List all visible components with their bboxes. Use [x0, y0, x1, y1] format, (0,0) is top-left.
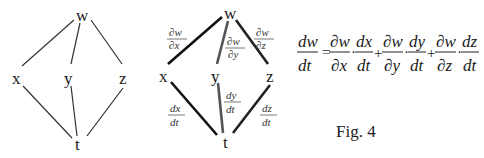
svg-text:dx: dx — [170, 102, 181, 114]
svg-text:∂w: ∂w — [330, 32, 350, 51]
node-t: t — [75, 135, 80, 154]
edge-label-z-t: dz dt — [260, 102, 277, 128]
svg-text:dt: dt — [357, 56, 372, 75]
edge-label-x-t: dx dt — [168, 102, 185, 128]
svg-text:∂w: ∂w — [436, 32, 456, 51]
edge-label-w-z: ∂w ∂z — [254, 26, 274, 51]
svg-text:dy: dy — [409, 32, 426, 51]
term-2-derivative: dy dt — [408, 32, 426, 75]
plus-sign: + — [374, 45, 382, 61]
node-y: y — [211, 67, 220, 86]
node-z: z — [119, 69, 127, 88]
svg-text:dt: dt — [226, 103, 236, 115]
svg-text:∂w: ∂w — [227, 35, 240, 47]
svg-text:∂y: ∂y — [228, 48, 238, 60]
svg-text:dt: dt — [410, 56, 425, 75]
svg-text:dz: dz — [462, 32, 478, 51]
svg-text:∂w: ∂w — [169, 26, 182, 38]
edge-label-y-t: dy dt — [224, 89, 241, 115]
edge-label-w-x: ∂w ∂x — [167, 26, 187, 51]
labeled-tree-diagram: w x y z t ∂w ∂x ∂w ∂y ∂w ∂z dx dt dy d — [159, 4, 277, 152]
term-3-partial: ∂w ∂z — [435, 32, 456, 75]
node-y: y — [64, 69, 73, 88]
node-x: x — [12, 69, 21, 88]
svg-text:dt: dt — [298, 56, 313, 75]
figure-caption: Fig. 4 — [336, 122, 376, 141]
node-w: w — [224, 4, 237, 23]
svg-text:dx: dx — [356, 32, 373, 51]
term-2-partial: ∂w ∂y — [382, 32, 403, 75]
svg-text:∂z: ∂z — [437, 56, 452, 75]
figure-canvas: w x y z t w x y z t ∂w ∂x ∂w ∂y ∂w ∂ — [0, 0, 484, 158]
svg-text:∂z: ∂z — [256, 39, 266, 51]
plus-sign: + — [427, 45, 435, 61]
svg-text:dy: dy — [226, 89, 237, 101]
svg-text:∂x: ∂x — [169, 39, 179, 51]
node-z: z — [266, 67, 274, 86]
edge-label-w-y: ∂w ∂y — [225, 35, 245, 60]
svg-text:dz: dz — [262, 102, 273, 114]
node-w: w — [76, 6, 89, 25]
term-1-derivative: dx dt — [355, 32, 373, 75]
svg-text:∂y: ∂y — [384, 56, 400, 75]
term-3-derivative: dz dt — [461, 32, 479, 75]
svg-text:∂w: ∂w — [256, 26, 269, 38]
svg-text:dw: dw — [298, 32, 319, 51]
node-x: x — [159, 67, 168, 86]
svg-text:dt: dt — [262, 116, 272, 128]
chain-rule-equation: dw dt = ∂w ∂x · dx dt + ∂w ∂y · dy dt + — [297, 32, 479, 75]
svg-text:dt: dt — [170, 116, 180, 128]
svg-text:∂x: ∂x — [331, 56, 347, 75]
node-t: t — [223, 133, 228, 152]
term-1-partial: ∂w ∂x — [329, 32, 350, 75]
svg-text:∂w: ∂w — [383, 32, 403, 51]
left-tree-diagram: w x y z t — [12, 6, 127, 154]
lhs-fraction: dw dt — [297, 32, 319, 75]
svg-text:dt: dt — [463, 56, 478, 75]
